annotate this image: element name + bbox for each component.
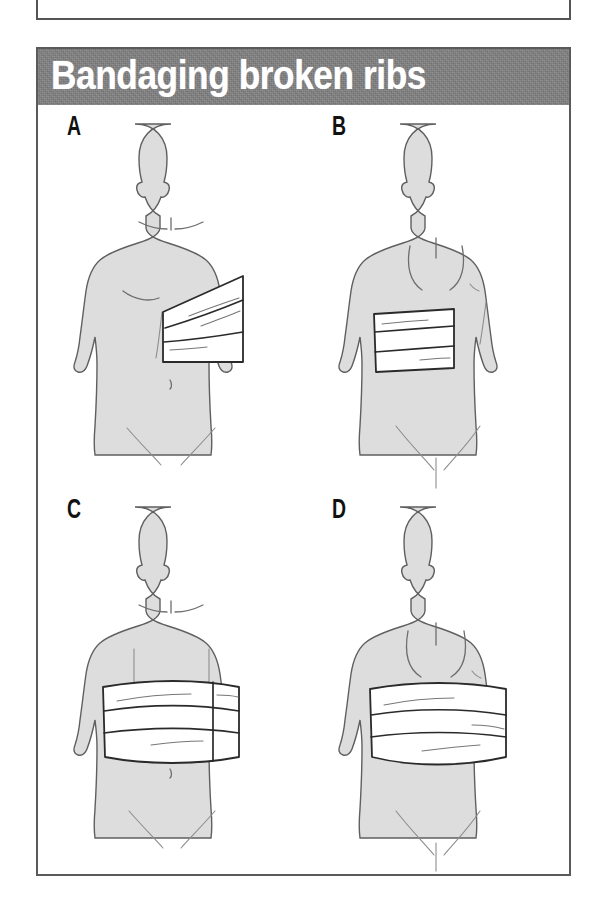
preceding-figure-box: bandaging broken ribs	[36, 0, 571, 20]
panel-d-illustration	[304, 489, 569, 874]
panel-b: B	[304, 106, 569, 491]
figure-title: Bandaging broken ribs	[51, 52, 426, 98]
panel-c-illustration	[39, 489, 304, 874]
panel-a-illustration	[39, 106, 304, 491]
panel-b-illustration	[304, 106, 569, 491]
panel-d: D	[304, 489, 569, 874]
figure-frame: Bandaging broken ribs A	[36, 47, 571, 876]
panel-a: A	[39, 106, 304, 491]
title-banner: Bandaging broken ribs	[38, 49, 569, 105]
panel-c: C	[39, 489, 304, 874]
